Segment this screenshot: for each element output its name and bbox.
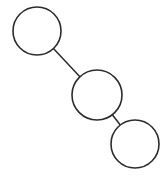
nodes-layer	[13, 7, 159, 168]
tree-node-2	[72, 70, 122, 120]
tree-diagram	[0, 0, 164, 182]
edge-n2-n3	[112, 115, 120, 125]
edge-n1-n2	[53, 49, 79, 77]
tree-node-1	[13, 7, 61, 55]
tree-node-3	[111, 120, 159, 168]
